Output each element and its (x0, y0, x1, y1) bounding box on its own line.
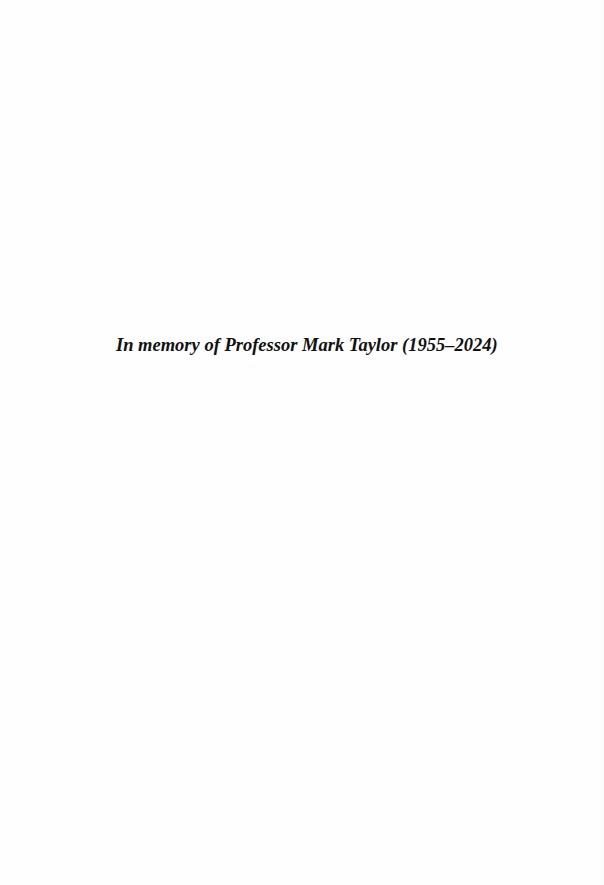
dedication-text: In memory of Professor Mark Taylor (1955… (116, 334, 498, 356)
page-edge-shadow (600, 0, 604, 885)
document-page: In memory of Professor Mark Taylor (1955… (0, 0, 604, 885)
